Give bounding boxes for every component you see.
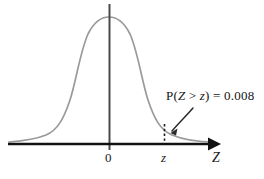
- annotation-suffix: ) =: [205, 88, 224, 103]
- axis-name-label: Z: [212, 151, 220, 165]
- normal-distribution-figure: P(Z > z) = 0.008 0 z Z: [0, 0, 264, 179]
- normal-curve: [9, 17, 214, 142]
- annotation-operator: >: [185, 88, 199, 103]
- axis-tick-label-zero: 0: [105, 151, 112, 164]
- axis-arrow-icon: [208, 138, 221, 151]
- annotation-value: 0.008: [224, 88, 254, 103]
- curved-pointer-arrow-icon: [172, 108, 193, 131]
- probability-annotation: P(Z > z) = 0.008: [166, 88, 254, 104]
- axis-tick-label-z: z: [161, 151, 166, 164]
- annotation-prefix: P(: [166, 88, 178, 103]
